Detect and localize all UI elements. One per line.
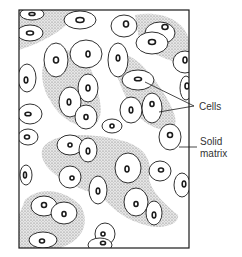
solid-matrix-label-line2: matrix: [200, 148, 227, 159]
solid-matrix-label-line1: Solid: [200, 136, 222, 147]
cells-label: Cells: [199, 101, 221, 112]
cartilage-diagram: [0, 0, 242, 257]
